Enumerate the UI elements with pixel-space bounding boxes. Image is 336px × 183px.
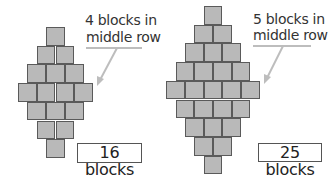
right-arrow-icon	[264, 46, 283, 84]
left-total-label: 16 blocks	[77, 143, 142, 163]
block-diamond-diagram: 4 blocks in middle row 5 blocks in middl…	[0, 0, 336, 183]
left-arrow-icon	[97, 48, 117, 86]
right-total-label: 25 blocks	[258, 143, 322, 162]
